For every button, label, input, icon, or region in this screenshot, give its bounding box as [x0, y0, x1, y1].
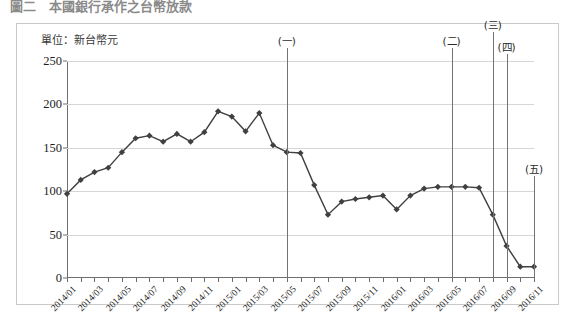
x-tick-mark	[108, 278, 109, 282]
y-tick-label: 100	[43, 184, 62, 199]
x-tick-label: 2016/07	[461, 284, 490, 313]
data-point	[476, 185, 482, 191]
data-point	[311, 182, 317, 188]
x-tick-label: 2016/11	[516, 284, 545, 313]
annotation-line	[493, 32, 494, 278]
x-tick-label: 2014/01	[49, 284, 78, 313]
x-tick-mark	[246, 278, 247, 282]
x-tick-mark	[287, 278, 288, 282]
annotation-label: (四)	[497, 39, 515, 54]
x-tick-mark	[149, 278, 150, 282]
data-point	[297, 150, 303, 156]
x-tick-mark	[273, 278, 274, 282]
x-tick-mark	[191, 278, 192, 282]
figure-frame: 單位：新台幣元 050100150200250 2014/012014/0320…	[16, 23, 559, 305]
x-tick-mark	[204, 278, 205, 282]
annotation-label: (二)	[442, 33, 460, 48]
x-tick-mark	[520, 278, 521, 282]
x-tick-mark	[328, 278, 329, 282]
x-tick-mark	[410, 278, 411, 282]
x-tick-mark	[534, 278, 535, 282]
x-tick-mark	[122, 278, 123, 282]
data-point	[435, 184, 441, 190]
annotation-line	[452, 48, 453, 278]
x-tick-label: 2015/03	[241, 284, 270, 313]
x-tick-label: 2016/01	[379, 284, 408, 313]
x-tick-mark	[383, 278, 384, 282]
x-tick-label: 2015/09	[324, 284, 353, 313]
x-tick-mark	[94, 278, 95, 282]
x-tick-mark	[355, 278, 356, 282]
x-tick-label: 2015/07	[296, 284, 325, 313]
x-tick-mark	[438, 278, 439, 282]
x-tick-label: 2016/05	[434, 284, 463, 313]
x-tick-mark	[136, 278, 137, 282]
data-point	[91, 169, 97, 175]
data-point	[366, 194, 372, 200]
x-tick-label: 2014/11	[187, 284, 216, 313]
x-tick-label: 2014/03	[76, 284, 105, 313]
series-line	[67, 111, 534, 266]
chart-plot-area: 050100150200250 2014/012014/032014/05201…	[67, 61, 534, 278]
data-point	[352, 196, 358, 202]
data-series	[67, 61, 534, 278]
x-tick-mark	[397, 278, 398, 282]
x-tick-label: 2016/09	[488, 284, 517, 313]
x-tick-label: 2016/03	[406, 284, 435, 313]
x-tick-label: 2014/05	[104, 284, 133, 313]
x-tick-mark	[452, 278, 453, 282]
x-tick-label: 2014/07	[131, 284, 160, 313]
x-tick-label: 2015/05	[269, 284, 298, 313]
x-tick-mark	[342, 278, 343, 282]
x-tick-mark	[424, 278, 425, 282]
data-point	[160, 139, 166, 145]
x-tick-label: 2015/11	[351, 284, 380, 313]
annotation-line	[534, 176, 535, 278]
x-tick-mark	[369, 278, 370, 282]
page-title: 圖二 本國銀行承作之台幣放款	[10, 0, 570, 14]
annotation-label: (一)	[278, 33, 296, 48]
x-tick-mark	[218, 278, 219, 282]
annotation-line	[287, 48, 288, 278]
x-tick-mark	[67, 278, 68, 282]
x-tick-mark	[177, 278, 178, 282]
x-tick-mark	[493, 278, 494, 282]
y-tick-label: 250	[43, 54, 62, 69]
annotation-line	[507, 54, 508, 278]
data-point	[462, 184, 468, 190]
unit-label: 單位：新台幣元	[41, 31, 118, 47]
x-tick-mark	[81, 278, 82, 282]
data-point	[421, 185, 427, 191]
data-point	[174, 131, 180, 137]
x-tick-mark	[259, 278, 260, 282]
y-tick-label: 50	[50, 227, 63, 242]
x-tick-mark	[465, 278, 466, 282]
y-tick-label: 150	[43, 140, 62, 155]
annotation-label: (五)	[525, 161, 543, 176]
x-tick-mark	[301, 278, 302, 282]
y-tick-label: 0	[56, 271, 62, 286]
x-tick-label: 2014/09	[159, 284, 188, 313]
x-tick-mark	[479, 278, 480, 282]
x-tick-mark	[507, 278, 508, 282]
x-tick-mark	[163, 278, 164, 282]
data-point	[146, 133, 152, 139]
x-tick-label: 2015/01	[214, 284, 243, 313]
x-tick-mark	[314, 278, 315, 282]
x-tick-mark	[232, 278, 233, 282]
annotation-label: (三)	[484, 17, 502, 32]
y-tick-label: 200	[43, 97, 62, 112]
data-point	[270, 142, 276, 148]
